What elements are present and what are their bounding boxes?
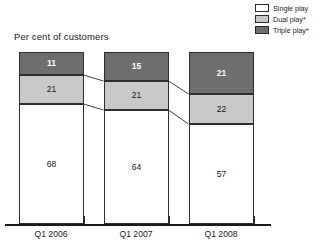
axis-tick [254,216,255,224]
bar-segment-value: 21 [217,69,226,78]
bar-segment-value: 22 [217,105,226,114]
bar-segment-value: 21 [132,91,141,100]
stacked-bar-chart: Per cent of customers Single play Dual p… [0,0,328,251]
bar-segment-triple-play: 15 [104,52,169,81]
x-axis-label-q1-2007: Q1 2007 [120,229,153,239]
bar-segment-value: 21 [47,85,56,94]
x-axis-label-q1-2008: Q1 2008 [205,229,238,239]
bar-segment-triple-play: 11 [19,52,84,75]
bar-segment-single-play: 68 [19,104,84,224]
bar-segment-dual-play: 22 [189,94,254,124]
x-axis-line [5,224,271,226]
bar-segment-value: 57 [217,170,226,179]
bar-segment-value: 68 [47,160,56,169]
x-axis-label-q1-2006: Q1 2006 [35,229,68,239]
bar-segment-value: 11 [47,59,56,68]
axis-tick [19,216,20,224]
bar-q1-2008: 21 22 57 [189,52,254,224]
bar-segment-single-play: 57 [189,124,254,224]
bar-segment-dual-play: 21 [104,81,169,110]
axis-tick [169,216,170,224]
axis-tick [189,216,190,224]
axis-tick [84,216,85,224]
axis-tick [104,216,105,224]
bar-q1-2006: 11 21 68 [19,52,84,224]
plot-area: 11 21 68 15 21 64 21 [0,0,328,251]
bar-q1-2007: 15 21 64 [104,52,169,224]
bar-segment-value: 64 [132,163,141,172]
bar-segment-dual-play: 21 [19,75,84,104]
bar-segment-single-play: 64 [104,110,169,224]
bar-segment-triple-play: 21 [189,52,254,94]
bar-segment-value: 15 [132,62,141,71]
